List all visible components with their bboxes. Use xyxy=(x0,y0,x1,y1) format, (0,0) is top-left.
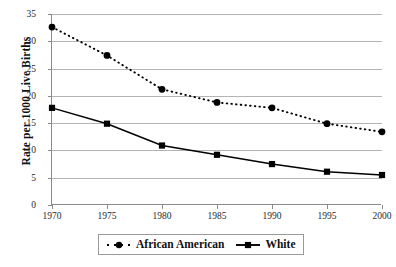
x-tick-label: 2000 xyxy=(362,211,396,221)
x-tick-label: 1980 xyxy=(142,211,182,221)
series-2 xyxy=(49,105,385,178)
data-point xyxy=(214,99,221,106)
x-tick-label: 1985 xyxy=(197,211,237,221)
y-tick-label: 15 xyxy=(0,118,36,128)
x-tick-mark xyxy=(382,205,383,209)
x-tick-mark xyxy=(107,205,108,209)
data-point xyxy=(269,161,275,167)
y-tick-label: 0 xyxy=(0,200,36,210)
series-1 xyxy=(49,24,386,136)
y-tick-label: 10 xyxy=(0,145,36,155)
x-tick-mark xyxy=(327,205,328,209)
data-point xyxy=(49,105,55,111)
series-layer xyxy=(52,14,382,205)
y-tick-label: 25 xyxy=(0,64,36,74)
data-point xyxy=(379,128,386,135)
legend-item: White xyxy=(235,239,295,251)
y-tick-label: 35 xyxy=(0,9,36,19)
data-point xyxy=(159,86,166,93)
y-axis-title: Rate per 1000 Live Births xyxy=(20,1,32,201)
legend-circle-marker-icon xyxy=(106,240,132,250)
legend-label: African American xyxy=(136,239,224,251)
x-tick-label: 1990 xyxy=(252,211,292,221)
x-tick-mark xyxy=(52,205,53,209)
y-tick-label: 5 xyxy=(0,173,36,183)
legend-item: African American xyxy=(106,239,224,251)
plot-area: 05101520253035 1970197519801985199019952… xyxy=(51,14,381,205)
x-tick-mark xyxy=(162,205,163,209)
x-tick-label: 1995 xyxy=(307,211,347,221)
data-point xyxy=(324,120,331,127)
y-tick-label: 30 xyxy=(0,36,36,46)
series-line xyxy=(52,108,382,175)
data-point xyxy=(159,142,165,148)
x-tick-mark xyxy=(272,205,273,209)
series-line xyxy=(52,27,382,132)
chart-legend: African AmericanWhite xyxy=(98,234,304,255)
data-point xyxy=(104,121,110,127)
data-point xyxy=(214,152,220,158)
x-tick-mark xyxy=(217,205,218,209)
data-point xyxy=(324,169,330,175)
data-point xyxy=(269,104,276,111)
legend-label: White xyxy=(265,239,295,251)
y-tick-label: 20 xyxy=(0,91,36,101)
data-point xyxy=(104,52,111,59)
data-point xyxy=(379,172,385,178)
data-point xyxy=(49,24,56,31)
legend-square-marker-icon xyxy=(235,240,261,250)
x-tick-label: 1970 xyxy=(32,211,72,221)
x-tick-label: 1975 xyxy=(87,211,127,221)
